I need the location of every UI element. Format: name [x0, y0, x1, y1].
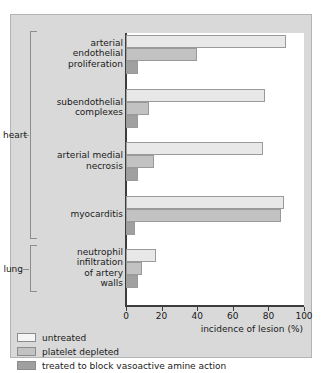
bar: [126, 249, 156, 262]
category-label-line: arterial medial: [31, 150, 123, 161]
category-label: subendothelialcomplexes: [31, 97, 123, 118]
category-label: arterialendothelialproliferation: [31, 38, 123, 70]
category-label: myocarditis: [31, 209, 123, 220]
category-label-line: neutrophil: [31, 247, 123, 258]
category-labels: arterialendothelialproliferationsubendot…: [27, 15, 123, 359]
bar: [126, 89, 265, 102]
legend-label: treated to block vasoactive amine action: [42, 361, 226, 371]
x-axis-tick-label: 100: [295, 311, 312, 321]
group-bracket-tick: [23, 269, 29, 270]
category-label-line: proliferation: [31, 59, 123, 70]
bar: [126, 61, 138, 74]
legend-swatch: [17, 347, 36, 356]
x-axis-tick-label: 60: [227, 311, 238, 321]
x-axis-tick-label: 20: [156, 311, 167, 321]
legend-item: treated to block vasoactive amine action: [17, 359, 226, 372]
category-label-line: subendothelial: [31, 97, 123, 108]
bar: [126, 262, 142, 275]
group-label: heart: [3, 130, 23, 140]
bar: [126, 35, 286, 48]
category-label-line: necrosis: [31, 161, 123, 172]
bar: [126, 275, 138, 288]
bar: [126, 48, 197, 61]
category-label-line: complexes: [31, 107, 123, 118]
legend-item: untreated: [17, 331, 226, 344]
group-bracket: [30, 245, 37, 292]
legend-swatch: [17, 333, 36, 342]
group-bracket: [30, 31, 37, 239]
bar: [126, 168, 138, 181]
category-label-line: myocarditis: [31, 209, 123, 220]
category-label-line: infiltration: [31, 257, 123, 268]
bar: [126, 196, 284, 209]
category-label-line: arterial: [31, 38, 123, 49]
x-axis-tick-label: 40: [191, 311, 202, 321]
x-axis-tick-label: 0: [123, 311, 129, 321]
category-label-line: walls: [31, 278, 123, 289]
bar: [126, 142, 263, 155]
bar: [126, 209, 281, 222]
legend-label: platelet depleted: [42, 347, 119, 357]
figure-panel: 020406080100 incidence of lesion (%) art…: [10, 14, 312, 358]
group-label: lung: [3, 264, 23, 274]
legend-label: untreated: [42, 333, 86, 343]
plot-area: [125, 33, 304, 305]
x-axis-tick-label: 80: [263, 311, 274, 321]
category-label-line: endothelial: [31, 48, 123, 59]
category-label: neutrophilinfiltrationof arterywalls: [31, 247, 123, 289]
bar: [126, 155, 154, 168]
bar: [126, 222, 135, 235]
x-axis-line: [125, 305, 304, 307]
category-label-line: of artery: [31, 268, 123, 279]
category-label: arterial medialnecrosis: [31, 150, 123, 171]
bar: [126, 115, 138, 128]
chart-legend: untreatedplatelet depletedtreated to blo…: [17, 331, 226, 373]
bar: [126, 102, 149, 115]
legend-item: platelet depleted: [17, 345, 226, 358]
legend-swatch: [17, 361, 36, 370]
